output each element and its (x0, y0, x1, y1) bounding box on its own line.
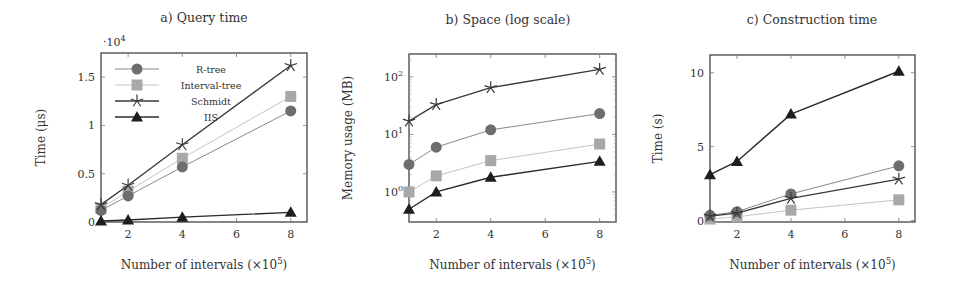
legend-marker-circle (132, 64, 143, 75)
triangle-marker (594, 155, 606, 166)
y-tick-label: 0 (88, 216, 95, 229)
chart-title: a) Query time (160, 10, 247, 25)
x-axis-label-main: Number of intervals (×10 (729, 258, 885, 272)
y-tick-label: 10 (690, 67, 704, 80)
x-axis-label-close: ) (591, 258, 596, 272)
circle-marker (485, 124, 496, 135)
triangle-marker (704, 169, 716, 180)
x-axis-label: Number of intervals (×105) (121, 256, 288, 272)
square-marker (485, 155, 496, 166)
legend-label: Interval-tree (181, 80, 242, 91)
x-tick-label: 6 (233, 228, 240, 241)
x-axis-label: Number of intervals (×105) (429, 256, 596, 272)
triangle-marker (403, 203, 415, 214)
figure: a) Query time246800.511.5·104Number of i… (0, 0, 954, 292)
y-tick-label: 100 (384, 184, 403, 199)
x-tick-label: 2 (125, 228, 132, 241)
series-iis (95, 206, 297, 225)
series-line (409, 114, 600, 165)
plot-frame (409, 54, 616, 222)
triangle-marker (785, 108, 797, 119)
circle-marker (123, 190, 134, 201)
series-schmidt (704, 173, 905, 222)
plot-frame (710, 55, 915, 222)
figure-canvas: a) Query time246800.511.5·104Number of i… (0, 0, 954, 292)
x-axis-label-main: Number of intervals (×10 (429, 258, 585, 272)
x-tick-label: 6 (542, 228, 549, 241)
y-multiplier-base: ·10 (103, 36, 121, 49)
y-tick-label: 1.5 (78, 71, 96, 84)
y-tick-exp: 0 (398, 184, 403, 193)
y-tick-base: 10 (384, 71, 398, 84)
y-tick-label: 102 (384, 69, 403, 84)
star-marker (893, 173, 905, 185)
y-tick-base: 10 (384, 186, 398, 199)
legend-label: R-tree (196, 64, 226, 75)
y-tick-base: 10 (384, 128, 398, 141)
legend-marker-square (132, 80, 143, 91)
series-r-tree (96, 105, 297, 215)
y-axis-label: Time (μs) (34, 109, 48, 166)
circle-marker (594, 108, 605, 119)
legend: R-treeInterval-treeSchmidtIIS (115, 64, 242, 123)
x-tick-label: 4 (487, 228, 494, 241)
square-marker (785, 205, 796, 216)
series-r-tree (404, 108, 606, 170)
x-tick-label: 2 (433, 228, 440, 241)
y-axis-label: Memory usage (MB) (341, 76, 355, 200)
y-tick-label: 0 (697, 215, 704, 228)
chart-title: b) Space (log scale) (446, 12, 571, 27)
x-tick-label: 6 (841, 228, 848, 241)
triangle-marker (285, 206, 297, 217)
y-tick-label: 5 (697, 141, 704, 154)
chart-space: b) Space (log scale)2468100101102Number … (341, 12, 616, 272)
x-tick-label: 2 (733, 228, 740, 241)
legend-marker-triangle (131, 111, 143, 122)
y-axis-label: Time (s) (651, 114, 665, 164)
x-tick-label: 8 (287, 228, 294, 241)
y-multiplier-exp: 4 (121, 34, 126, 43)
legend-label: Schmidt (191, 96, 231, 107)
legend-label: IIS (204, 112, 218, 123)
y-tick-label: 101 (384, 126, 403, 141)
circle-marker (431, 142, 442, 153)
series-line (409, 69, 600, 121)
y-tick-label: 0.5 (78, 168, 96, 181)
circle-marker (404, 159, 415, 170)
circle-marker (285, 105, 296, 116)
x-tick-label: 8 (895, 228, 902, 241)
circle-marker (893, 160, 904, 171)
star-marker (593, 63, 605, 75)
square-marker (893, 194, 904, 205)
x-tick-label: 4 (787, 228, 794, 241)
x-tick-label: 8 (596, 228, 603, 241)
y-tick-exp: 2 (398, 69, 403, 78)
y-tick-label: 1 (88, 119, 95, 132)
y-multiplier: ·104 (103, 34, 126, 49)
series-iis (403, 155, 606, 213)
square-marker (431, 170, 442, 181)
series-iis (704, 65, 905, 179)
x-axis-label-main: Number of intervals (×10 (121, 258, 277, 272)
chart-query-time: a) Query time246800.511.5·104Number of i… (34, 10, 307, 272)
circle-marker (96, 205, 107, 216)
y-tick-exp: 1 (398, 126, 403, 135)
x-axis-label-close: ) (891, 258, 896, 272)
chart-title: c) Construction time (747, 12, 877, 27)
series-line (409, 161, 600, 209)
chart-construction-time: c) Construction time24680510Number of in… (651, 12, 915, 272)
x-axis-label-close: ) (283, 258, 288, 272)
square-marker (285, 91, 296, 102)
x-axis-label: Number of intervals (×105) (729, 256, 896, 272)
triangle-marker (893, 65, 905, 76)
square-marker (594, 139, 605, 150)
circle-marker (177, 161, 188, 172)
x-tick-label: 4 (179, 228, 186, 241)
square-marker (404, 186, 415, 197)
